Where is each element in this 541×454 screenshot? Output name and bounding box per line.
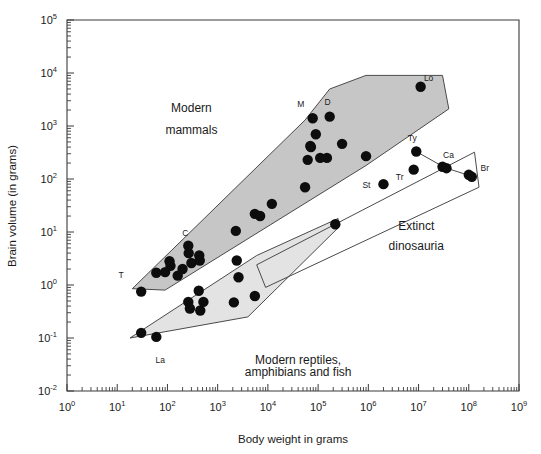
data-point[interactable] [311, 129, 321, 139]
data-point-label: La [156, 355, 166, 365]
data-point[interactable] [415, 82, 425, 92]
data-point[interactable] [194, 286, 204, 296]
y-axis-tick-label: 102 [41, 171, 57, 185]
x-axis-tick-label: 103 [209, 399, 225, 413]
data-point-label: Lo [424, 73, 434, 83]
data-point[interactable] [136, 328, 146, 338]
data-point[interactable] [231, 226, 241, 236]
data-point[interactable] [467, 172, 477, 182]
x-axis-tick-label: 105 [310, 399, 326, 413]
data-point[interactable] [233, 272, 243, 282]
data-point-label: St [362, 180, 371, 190]
y-axis-tick-label: 10-1 [38, 330, 57, 344]
y-axis-tick-label: 103 [41, 118, 57, 132]
data-point[interactable] [411, 146, 421, 156]
data-point[interactable] [337, 139, 347, 149]
annotation-extinct-dinosauria-line1: Extinct [398, 219, 435, 233]
data-point[interactable] [267, 199, 277, 209]
y-axis-title: Brain volume (in grams) [6, 145, 18, 267]
data-point[interactable] [184, 248, 194, 258]
data-point-label: D [325, 97, 331, 107]
x-axis-tick-label: 107 [410, 399, 426, 413]
data-point[interactable] [441, 163, 451, 173]
annotation-extinct-dinosauria-line2: dinosauria [389, 239, 445, 253]
x-axis-tick-label: 100 [59, 399, 75, 413]
data-point[interactable] [324, 111, 334, 121]
data-point[interactable] [185, 303, 195, 313]
x-axis-tick-label: 104 [260, 399, 276, 413]
data-point[interactable] [378, 179, 388, 189]
y-axis-tick-label: 105 [41, 12, 57, 26]
data-point[interactable] [300, 182, 310, 192]
x-axis-tick-label: 102 [159, 399, 175, 413]
brain-volume-vs-body-weight-chart: TCMDLoLaStTrTyCaBr 100101102103104105106… [0, 0, 541, 454]
data-point[interactable] [198, 297, 208, 307]
data-point[interactable] [250, 291, 260, 301]
data-point[interactable] [307, 113, 317, 123]
data-point[interactable] [151, 268, 161, 278]
annotation-modern-mammals-line1: Modern [171, 101, 212, 115]
data-point[interactable] [302, 155, 312, 165]
x-axis-title: Body weight in grams [238, 433, 348, 445]
data-point-label: Ca [443, 150, 454, 160]
x-axis-tick-label: 108 [461, 399, 477, 413]
data-point[interactable] [306, 142, 316, 152]
data-point-label: Br [481, 163, 490, 173]
y-axis-tick-label: 100 [41, 277, 57, 291]
data-point[interactable] [177, 264, 187, 274]
y-axis-tick-label: 101 [41, 224, 57, 238]
data-point[interactable] [195, 255, 205, 265]
data-point-label: C [182, 228, 188, 238]
data-point[interactable] [136, 286, 146, 296]
data-point-label: Ty [408, 133, 418, 143]
y-axis-tick-label: 10-2 [38, 383, 57, 397]
x-axis-tick-label: 109 [511, 399, 527, 413]
y-axis-tick-label: 104 [41, 65, 57, 79]
data-point-label: T [119, 270, 124, 280]
data-point[interactable] [255, 211, 265, 221]
data-point[interactable] [361, 151, 371, 161]
data-point[interactable] [322, 153, 332, 163]
x-axis-tick-label: 106 [360, 399, 376, 413]
data-point-label: M [297, 99, 304, 109]
data-point[interactable] [232, 255, 242, 265]
annotation-modern-mammals-line2: mammals [165, 123, 217, 137]
x-axis-tick-label: 101 [109, 399, 125, 413]
data-point-label: Tr [396, 172, 404, 182]
annotation-modern-reptiles-line2: amphibians and fish [245, 365, 352, 379]
data-point[interactable] [165, 261, 175, 271]
data-point[interactable] [151, 332, 161, 342]
data-point[interactable] [330, 219, 340, 229]
plot-svg: TCMDLoLaStTrTyCaBr 100101102103104105106… [0, 0, 541, 454]
data-point[interactable] [229, 297, 239, 307]
data-point[interactable] [408, 164, 418, 174]
